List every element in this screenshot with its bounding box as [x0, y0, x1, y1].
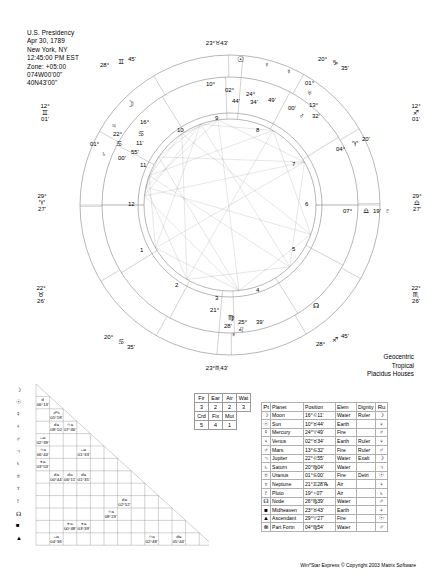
planet-table-header-row: Pt Planet Position Elem Dignity Ru: [262, 403, 388, 412]
aspect-cell: ☆a08°23': [104, 509, 118, 519]
node-glyph-wheel: ☊: [313, 303, 319, 310]
planet-ruler: ♂: [376, 428, 388, 437]
planet-name: Moon: [271, 411, 304, 420]
planet-position: 22°♌55': [304, 454, 336, 463]
aspect-orb: 06°11': [63, 477, 77, 482]
planet-ruler: ☉: [376, 471, 388, 480]
planet-element: Water: [336, 454, 357, 463]
aspect-orb: 02°52': [118, 502, 132, 507]
mars-degree-wheel: 13°: [309, 102, 318, 109]
descendant-label: 29° ♎ 27': [402, 193, 428, 213]
planet-row: ♇Pluto19°♆07'Air♄: [262, 488, 388, 497]
planet-name: Midheaven: [271, 506, 304, 515]
planet-min-11: 11': [136, 140, 143, 147]
aspect-grid-row-glyph: ▲: [16, 535, 22, 541]
planet-row: ♃Jupiter22°♌55'WaterExalt☽: [262, 454, 388, 463]
cusp-label-8-deg: 28°: [316, 341, 325, 348]
planet-dignity: [357, 497, 376, 506]
planet-ruler: ♀: [376, 480, 388, 489]
planet-min-44: 44': [232, 98, 240, 105]
col-header-pt: Pt: [262, 403, 271, 412]
aspect-grid-row-glyph: ♄: [16, 460, 21, 466]
cusp-label-12b-sign: ♋: [118, 339, 124, 346]
pluto-glyph-wheel: ♇: [385, 208, 390, 215]
aspect-grid-row-glyph: ■: [16, 522, 20, 528]
aspect-orb: 07°46': [63, 427, 77, 432]
house-number-2: 2: [175, 282, 178, 289]
planet-positions-table: Pt Planet Position Elem Dignity Ru ☽Moon…: [261, 402, 388, 532]
planet-min-00b: 00': [118, 155, 126, 162]
planet-name: Uranus: [271, 471, 304, 480]
planet-row: ▲Ascendant29°♈27'Fire☉: [262, 514, 388, 523]
planet-element: Air: [336, 488, 357, 497]
cusp-label-12b-deg: 20°: [104, 334, 113, 341]
planet-dignity: [357, 506, 376, 515]
planet-dignity: Ruler: [357, 411, 376, 420]
cancer-glyph-wheel-2: ♋: [116, 141, 122, 148]
house-system-label: Placidus Houses: [367, 370, 414, 379]
aspect-orb: 02°48': [145, 539, 159, 544]
planet-element: Water: [336, 523, 357, 532]
planet-min-55: 55': [131, 149, 139, 156]
cusp-label-8-min: 45': [341, 333, 349, 340]
aspect-grid-row-glyph: ♆: [16, 485, 21, 491]
aspect-grid: ☽☉☿♀♂♃♄♅♆♇☊■▲ ☌06°13'☍s05°18'☌a08°10'☆a0…: [14, 378, 209, 546]
planet-row: ⊗Part Fortn04°♍54'Water♂: [262, 523, 388, 532]
sun-degree-wheel: 10°: [206, 81, 215, 88]
aspect-grid-row-glyph: ☊: [16, 510, 21, 517]
cusp-label-8-sign: ♐: [332, 337, 338, 344]
aspect-cell: ☌a00°44': [50, 472, 64, 482]
planet-name: Sun: [271, 420, 304, 429]
planet-dignity: [357, 514, 376, 523]
planet-position: 29°♈27': [304, 514, 336, 523]
uranus-glyph-wheel: ♅: [307, 90, 312, 97]
planet-glyph: ♅: [262, 471, 271, 480]
planet-glyph: ☽: [262, 411, 271, 420]
planet-glyph: ♄: [262, 463, 271, 472]
aspect-cell: ⚹a03°53': [36, 459, 50, 469]
sun-glyph-wheel: ☉: [237, 57, 244, 64]
coordinate-system-label: Geocentric: [367, 353, 414, 362]
planet-row: ☽Moon16°♌11'WaterRuler☽: [262, 411, 388, 420]
cusp-label-1-min: 20': [362, 136, 370, 143]
jupiter-glyph-wheel: ♃: [111, 123, 116, 130]
aspect-orb: 06°44': [36, 452, 50, 457]
mercury-degree-wheel: 24°: [246, 91, 255, 98]
planet-glyph: ♆: [262, 480, 271, 489]
cusp-label-10-deg: 21°: [210, 307, 219, 314]
planet-ruler: ♄: [376, 488, 388, 497]
cusp-label-12b-min: 35': [127, 344, 135, 351]
chart-settings: Geocentric Tropical Placidus Houses: [367, 353, 414, 379]
planet-name: Mercury: [271, 428, 304, 437]
planet-name: Ascendant: [271, 514, 304, 523]
planet-position: 02°♉34': [304, 437, 336, 446]
planet-dignity: [357, 523, 376, 532]
cusp-label-9b-min: 35': [341, 65, 349, 72]
planet-dignity: [357, 480, 376, 489]
aspect-cell: ☌a08°10': [50, 422, 64, 432]
aspect-cell: ☆a07°46': [63, 422, 77, 432]
cusp-label-7-deg: 07°: [343, 208, 352, 215]
dsc-minute: 27': [402, 206, 428, 213]
planet-name: Saturn: [271, 463, 304, 472]
col-header-position: Position: [304, 403, 336, 412]
cusp-label-1-deg: 04°: [336, 146, 345, 153]
planet-ruler: ♂: [376, 445, 388, 454]
house-number-12: 12: [128, 201, 135, 208]
aspect-orb: 02°39': [36, 440, 50, 445]
cusp-label-2: 22° ♉ 26': [28, 285, 54, 305]
planet-glyph: ▲: [262, 514, 271, 523]
element-count-water: 3: [237, 403, 251, 412]
planet-glyph: ♇: [262, 488, 271, 497]
planet-ruler: ♂: [376, 497, 388, 506]
saturn-glyph-wheel: ♄: [101, 151, 106, 158]
aspect-cell: ☆a02°48': [145, 534, 159, 544]
planet-glyph: ☉: [262, 420, 271, 429]
aspect-cell: ☌a06°11': [63, 472, 77, 482]
planet-name: Node: [271, 497, 304, 506]
planet-element: Fire: [336, 514, 357, 523]
house-number-11: 11: [140, 162, 146, 169]
planet-glyph: ♀: [262, 437, 271, 446]
planet-name: Mars: [271, 445, 304, 454]
cusp-label-10-sign: ♍: [228, 315, 234, 322]
